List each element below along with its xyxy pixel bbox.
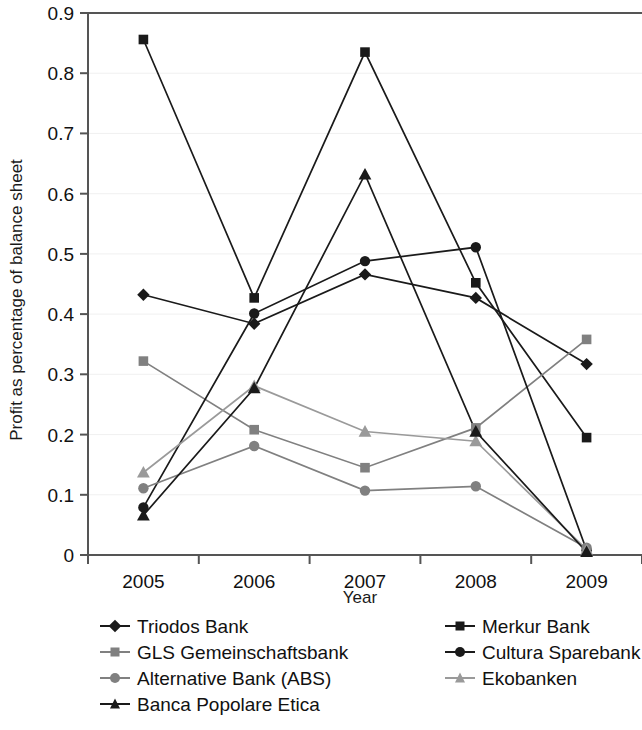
legend-item[interactable]: GLS Gemeinschaftsbank bbox=[100, 639, 440, 665]
series-line bbox=[143, 446, 586, 548]
series-data-point bbox=[359, 425, 372, 437]
y-tick-label: 0.7 bbox=[48, 123, 74, 144]
legend-item-label: Triodos Bank bbox=[137, 617, 248, 636]
series-data-point bbox=[580, 358, 592, 370]
x-tick-label: 2008 bbox=[455, 571, 497, 592]
legend-item-label: Banca Popolare Etica bbox=[137, 695, 320, 714]
y-tick-label: 0.6 bbox=[48, 184, 74, 205]
legend-swatch bbox=[100, 669, 130, 687]
series-data-point bbox=[359, 268, 371, 280]
series-data-point bbox=[137, 289, 149, 301]
legend-swatch bbox=[100, 695, 130, 713]
legend-marker-square-icon bbox=[456, 622, 465, 631]
line-chart-plot: 00.10.20.30.40.50.60.70.80.9 20052006200… bbox=[0, 0, 642, 612]
legend-item-label: Alternative Bank (ABS) bbox=[137, 669, 331, 688]
series-data-point bbox=[139, 35, 149, 45]
chart-legend: Triodos BankGLS GemeinschaftsbankAlterna… bbox=[100, 613, 642, 730]
legend-marker-circle-icon bbox=[110, 673, 120, 683]
series-line bbox=[143, 247, 586, 550]
series-data-point bbox=[471, 278, 481, 288]
series-data-point bbox=[138, 483, 148, 493]
legend-marker-diamond-icon bbox=[109, 620, 122, 633]
y-tick-label: 0.5 bbox=[48, 244, 74, 265]
legend-marker-circle-icon bbox=[455, 647, 465, 657]
legend-swatch bbox=[445, 617, 475, 635]
series-line bbox=[143, 274, 586, 364]
series-data-point bbox=[470, 292, 482, 304]
legend-column-right: Merkur BankCultura SparebankEkobanken bbox=[445, 613, 642, 691]
y-tick-label: 0.3 bbox=[48, 364, 74, 385]
legend-marker-triangle-icon bbox=[110, 699, 120, 709]
legend-item[interactable]: Banca Popolare Etica bbox=[100, 691, 440, 717]
chart-figure: 00.10.20.30.40.50.60.70.80.9 20052006200… bbox=[0, 0, 642, 730]
series-data-point bbox=[360, 485, 370, 495]
grid-lines bbox=[88, 13, 642, 495]
x-axis-ticks: 20052006200720082009 bbox=[88, 555, 642, 592]
y-tick-label: 0.9 bbox=[48, 3, 74, 24]
series-data-point bbox=[249, 425, 259, 435]
series-data-point bbox=[360, 256, 370, 266]
series-data-point bbox=[582, 335, 592, 345]
series-data-point bbox=[249, 441, 259, 451]
y-tick-label: 0.8 bbox=[48, 63, 74, 84]
series-data-point bbox=[137, 466, 150, 478]
series-data-point bbox=[582, 433, 592, 443]
legend-swatch bbox=[445, 669, 475, 687]
series-data-point bbox=[139, 356, 149, 366]
data-series-lines bbox=[143, 40, 586, 553]
legend-item[interactable]: Alternative Bank (ABS) bbox=[100, 665, 440, 691]
y-tick-label: 0 bbox=[63, 545, 74, 566]
legend-item[interactable]: Cultura Sparebank bbox=[445, 639, 642, 665]
legend-marker-square-icon bbox=[111, 648, 120, 657]
data-series-markers bbox=[137, 35, 593, 557]
legend-item-label: Merkur Bank bbox=[482, 617, 590, 636]
x-tick-label: 2005 bbox=[122, 571, 164, 592]
series-line bbox=[143, 339, 586, 467]
series-data-point bbox=[360, 463, 370, 473]
y-axis-ticks: 00.10.20.30.40.50.60.70.80.9 bbox=[48, 3, 88, 566]
y-axis-title: Profit as percentage of balance sheet bbox=[7, 159, 26, 441]
legend-item[interactable]: Triodos Bank bbox=[100, 613, 440, 639]
legend-item-label: GLS Gemeinschaftsbank bbox=[137, 643, 348, 662]
legend-item[interactable]: Ekobanken bbox=[445, 665, 642, 691]
legend-column-left: Triodos BankGLS GemeinschaftsbankAlterna… bbox=[100, 613, 440, 717]
y-tick-label: 0.2 bbox=[48, 425, 74, 446]
legend-swatch bbox=[100, 643, 130, 661]
legend-swatch bbox=[445, 643, 475, 661]
legend-item-label: Ekobanken bbox=[482, 669, 577, 688]
legend-item[interactable]: Merkur Bank bbox=[445, 613, 642, 639]
series-data-point bbox=[471, 481, 481, 491]
legend-marker-triangle-icon bbox=[455, 673, 465, 683]
y-tick-label: 0.1 bbox=[48, 485, 74, 506]
series-data-point bbox=[249, 293, 259, 303]
y-tick-label: 0.4 bbox=[48, 304, 75, 325]
series-data-point bbox=[249, 308, 259, 318]
series-data-point bbox=[360, 47, 370, 57]
series-line bbox=[143, 40, 586, 438]
series-data-point bbox=[248, 318, 260, 330]
legend-swatch bbox=[100, 617, 130, 635]
legend-item-label: Cultura Sparebank bbox=[482, 643, 640, 662]
x-tick-label: 2006 bbox=[233, 571, 275, 592]
x-axis-title: Year bbox=[343, 588, 378, 607]
x-tick-label: 2009 bbox=[565, 571, 607, 592]
series-data-point bbox=[471, 242, 481, 252]
series-data-point bbox=[359, 168, 372, 180]
